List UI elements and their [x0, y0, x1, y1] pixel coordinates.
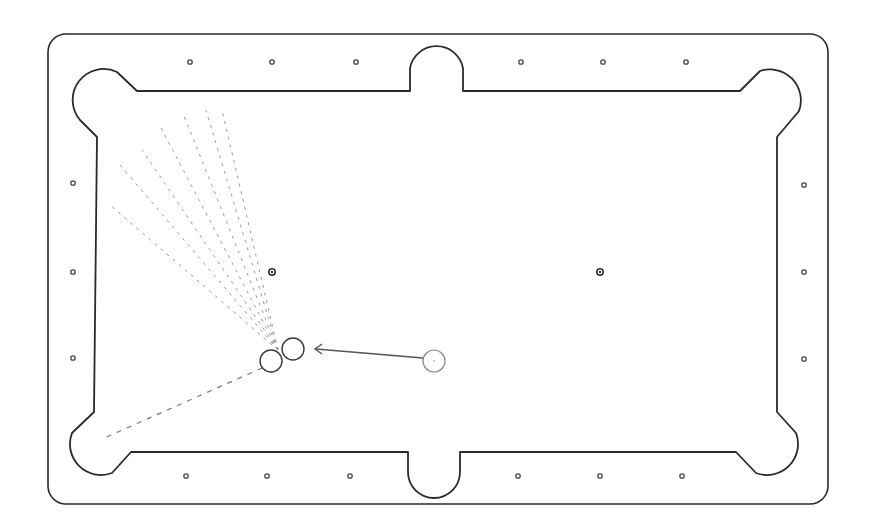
diamond-top-5 [601, 60, 605, 64]
cue-ball [423, 350, 445, 372]
table-outer-rail [48, 34, 828, 504]
table-cushion-outline [70, 46, 801, 498]
diamond-bottom-4 [516, 474, 520, 478]
object-ball-path-bottom-left [102, 368, 262, 439]
diamond-right-1 [802, 183, 806, 187]
diamond-top-6 [684, 60, 688, 64]
diamond-bottom-1 [184, 474, 188, 478]
diamond-top-4 [519, 60, 523, 64]
diamond-top-2 [270, 60, 274, 64]
fan-line-2 [120, 165, 278, 350]
diamond-top-3 [354, 60, 358, 64]
head-spot [269, 269, 275, 275]
object-ball-1 [260, 350, 282, 372]
diamond-left-3 [71, 356, 75, 360]
pool-table-diagram [0, 0, 869, 532]
object-ball-2 [282, 338, 304, 360]
fan-line-5 [184, 116, 278, 350]
diamond-bottom-6 [680, 474, 684, 478]
object-ball-path-fan [110, 110, 278, 350]
diamond-bottom-5 [598, 474, 602, 478]
diamond-bottom-2 [265, 474, 269, 478]
diamond-right-3 [802, 357, 806, 361]
fan-line-1 [110, 205, 278, 350]
cue-aim-line [316, 349, 423, 358]
fan-line-4 [160, 126, 278, 350]
fan-line-6 [206, 110, 278, 350]
fan-line-7 [222, 110, 278, 350]
diamond-left-1 [71, 181, 75, 185]
diamond-top-1 [188, 60, 192, 64]
foot-spot [597, 269, 603, 275]
diamond-right-2 [802, 270, 806, 274]
rail-diamonds [71, 60, 806, 478]
diamond-bottom-3 [348, 474, 352, 478]
diamond-left-2 [71, 270, 75, 274]
